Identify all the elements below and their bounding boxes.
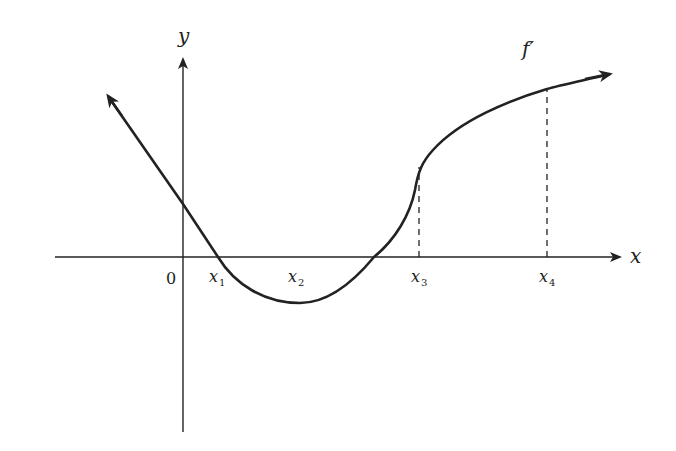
- svg-text:x: x: [288, 267, 297, 286]
- f-prime-curve: [110, 75, 606, 303]
- curve-label: f′: [520, 37, 534, 61]
- origin-label: 0: [166, 269, 176, 288]
- svg-text:3: 3: [421, 277, 427, 288]
- curve-arrow-left: [108, 96, 122, 116]
- svg-text:x: x: [209, 267, 218, 286]
- tick-label-x2: x 2: [288, 267, 304, 288]
- tick-label-x1: x 1: [209, 267, 225, 288]
- svg-text:1: 1: [219, 277, 225, 288]
- tick-label-x4: x 4: [539, 267, 555, 288]
- svg-text:x: x: [539, 267, 548, 286]
- tick-label-x3: x 3: [411, 267, 427, 288]
- x-axis-label: x: [630, 244, 641, 268]
- derivative-graph: y x f′ 0 x 1 x 2 x 3 x 4: [0, 0, 676, 451]
- svg-text:4: 4: [549, 277, 555, 288]
- y-axis-label: y: [177, 24, 190, 48]
- svg-text:2: 2: [298, 277, 304, 288]
- svg-text:x: x: [411, 267, 420, 286]
